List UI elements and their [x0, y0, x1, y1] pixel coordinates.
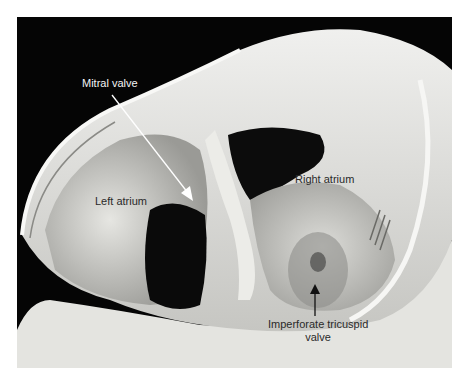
label-right-atrium: Right atrium [295, 173, 354, 186]
specimen-photo [17, 17, 452, 368]
heart-specimen-drawing [17, 17, 452, 368]
label-tricuspid-line1: Imperforate tricuspid [268, 318, 368, 331]
label-left-atrium: Left atrium [95, 195, 147, 208]
label-tricuspid-valve: Imperforate tricuspid valve [268, 318, 368, 344]
label-mitral-valve: Mitral valve [82, 77, 138, 90]
label-tricuspid-line2: valve [268, 331, 368, 344]
